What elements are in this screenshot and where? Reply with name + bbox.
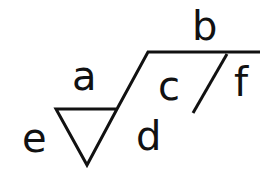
label-d: d	[136, 116, 161, 156]
label-b: b	[192, 6, 217, 46]
label-c: c	[158, 66, 180, 106]
slash-line	[193, 54, 227, 113]
symbol-diagram: b a c f e d	[0, 0, 271, 172]
label-f: f	[234, 62, 248, 102]
label-a: a	[72, 56, 97, 96]
label-e: e	[22, 118, 47, 158]
